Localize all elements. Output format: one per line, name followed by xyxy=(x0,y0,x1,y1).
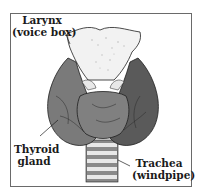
thyroid-label-line2: gland xyxy=(14,155,54,167)
larynx-label-line2: (voice box) xyxy=(12,26,72,38)
thyroid-label: Thyroid gland xyxy=(14,143,54,167)
larynx-label: Larynx (voice box) xyxy=(12,14,72,38)
thyroid-isthmus xyxy=(77,92,129,139)
trachea-label: Trachea (windpipe) xyxy=(132,157,186,181)
larynx-label-line1: Larynx xyxy=(12,14,72,26)
thyroid-label-line1: Thyroid xyxy=(14,143,54,155)
trachea-label-line1: Trachea xyxy=(132,157,186,169)
trachea-leader xyxy=(118,160,130,166)
trachea-label-line2: (windpipe) xyxy=(132,169,186,181)
trachea-shape xyxy=(86,140,118,182)
